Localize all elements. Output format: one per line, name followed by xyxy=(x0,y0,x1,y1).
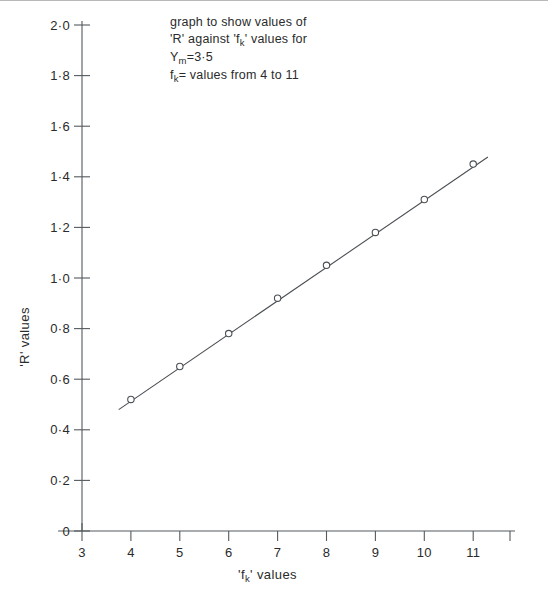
data-point xyxy=(128,396,134,402)
y-axis-tick-labels: 0 0·2 0·4 0·6 0·8 1·0 1·2 1·4 1·6 1·8 2·… xyxy=(50,18,70,539)
annotation-line-2: 'R' against 'fk' values for xyxy=(170,32,307,48)
data-point xyxy=(470,161,476,167)
y-tick-label: 2·0 xyxy=(50,18,70,33)
annotation-line-4: fk= values from 4 to 11 xyxy=(170,68,299,84)
annotation-line-2-post: ' values for xyxy=(245,32,307,46)
x-tick-label: 11 xyxy=(466,545,480,560)
data-point xyxy=(226,330,232,336)
x-tick-label: 9 xyxy=(372,545,380,560)
y-tick-label: 1·6 xyxy=(50,119,70,134)
data-point xyxy=(323,262,329,268)
y-tick-label: 1·2 xyxy=(50,220,70,235)
y-tick-label: 1·8 xyxy=(50,68,70,83)
x-tick-label: 8 xyxy=(323,545,331,560)
svg-text:'fk' values: 'fk' values xyxy=(238,567,297,584)
y-tick-label: 0·6 xyxy=(50,372,70,387)
y-tick-label: 0·8 xyxy=(50,321,70,336)
data-point xyxy=(421,196,427,202)
data-point xyxy=(274,295,280,301)
annotation-line-3-value: =3·5 xyxy=(187,50,213,64)
annotation-line-3: Ym=3·5 xyxy=(170,50,213,66)
y-tick-label: 0 xyxy=(62,524,70,539)
y-tick-label: 0·2 xyxy=(50,473,70,488)
x-axis-tick-labels: 3 4 5 6 7 8 9 10 11 xyxy=(78,545,480,560)
annotation-line-4-value: = values from 4 to 11 xyxy=(179,68,299,82)
x-axis-title-pre: 'f xyxy=(238,567,245,582)
x-tick-label: 6 xyxy=(225,545,233,560)
y-tick-label: 0·4 xyxy=(50,422,70,437)
x-tick-label: 4 xyxy=(127,545,135,560)
annotation-line-3-subscript: m xyxy=(179,55,187,66)
x-tick-label: 10 xyxy=(417,545,432,560)
data-point xyxy=(372,229,378,235)
chart-annotation: graph to show values of 'R' against 'fk'… xyxy=(170,15,307,84)
y-axis-title-text: 'R' values xyxy=(17,307,32,367)
series-trend-line xyxy=(119,157,488,410)
x-axis-title-post: ' values xyxy=(250,567,297,582)
y-tick-label: 1·0 xyxy=(50,271,70,286)
line-chart: 0 0·2 0·4 0·6 0·8 1·0 1·2 1·4 1·6 1·8 2·… xyxy=(0,1,548,591)
x-tick-label: 5 xyxy=(176,545,184,560)
chart-page: 0 0·2 0·4 0·6 0·8 1·0 1·2 1·4 1·6 1·8 2·… xyxy=(0,0,548,591)
x-axis-title: 'fk' values xyxy=(238,567,297,584)
x-tick-label: 7 xyxy=(274,545,282,560)
x-axis-ticks xyxy=(82,523,510,541)
y-axis-title: 'R' values xyxy=(17,307,32,367)
annotation-line-1: graph to show values of xyxy=(170,15,307,29)
annotation-line-2-pre: 'R' against 'f xyxy=(170,32,240,46)
x-tick-label: 3 xyxy=(78,545,86,560)
data-point xyxy=(177,363,183,369)
y-tick-label: 1·4 xyxy=(50,169,70,184)
data-point-markers xyxy=(128,161,477,403)
